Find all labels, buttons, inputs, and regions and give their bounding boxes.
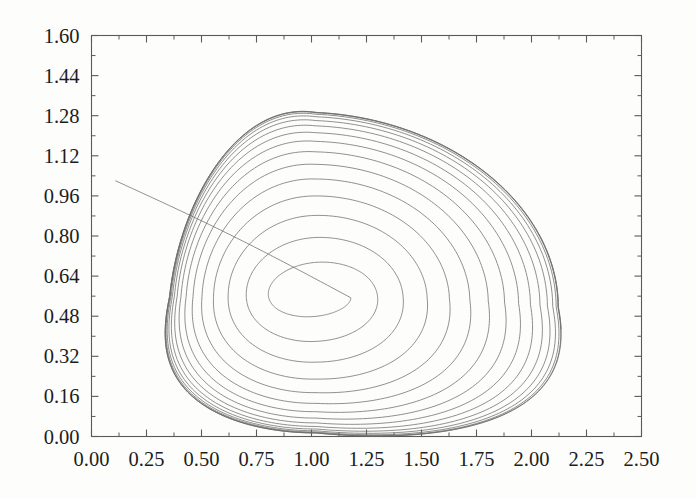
phase-portrait-plot: 0.000.250.500.751.001.251.501.752.002.25… xyxy=(0,0,696,499)
y-tick-label: 0.16 xyxy=(44,385,80,407)
x-tick-label: 1.75 xyxy=(459,448,495,470)
y-tick-label: 0.64 xyxy=(44,265,80,287)
trajectory-curve xyxy=(116,111,561,436)
x-axis-tick-labels: 0.000.250.500.751.001.251.501.752.002.25… xyxy=(74,448,660,470)
x-tick-label: 0.00 xyxy=(74,448,110,470)
x-tick-label: 0.50 xyxy=(184,448,220,470)
x-tick-label: 2.50 xyxy=(624,448,660,470)
x-tick-label: 0.75 xyxy=(239,448,275,470)
y-tick-label: 0.80 xyxy=(44,225,80,247)
axis-ticks xyxy=(92,36,642,437)
y-tick-label: 0.48 xyxy=(44,305,80,327)
x-tick-label: 1.00 xyxy=(294,448,330,470)
y-tick-label: 1.28 xyxy=(44,105,80,127)
y-tick-label: 0.00 xyxy=(44,426,80,448)
x-tick-label: 1.25 xyxy=(349,448,385,470)
trajectory-path xyxy=(116,111,561,436)
plot-frame xyxy=(92,36,642,437)
x-tick-label: 2.00 xyxy=(514,448,550,470)
y-tick-label: 0.96 xyxy=(44,185,80,207)
figure-canvas: 0.000.250.500.751.001.251.501.752.002.25… xyxy=(0,0,696,499)
y-tick-label: 0.32 xyxy=(44,345,80,367)
y-tick-label: 1.12 xyxy=(44,145,80,167)
y-tick-label: 1.44 xyxy=(44,65,80,87)
x-tick-label: 0.25 xyxy=(129,448,165,470)
y-axis-tick-labels: 0.000.160.320.480.640.800.961.121.281.44… xyxy=(44,25,80,448)
x-tick-label: 2.25 xyxy=(569,448,605,470)
x-tick-label: 1.50 xyxy=(404,448,440,470)
y-tick-label: 1.60 xyxy=(44,25,80,47)
